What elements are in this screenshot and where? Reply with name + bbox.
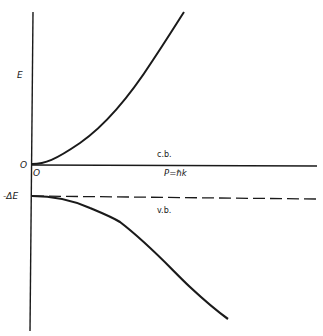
conduction-band-label: c.b. <box>157 150 172 159</box>
band-diagram: E O O -ΔE P=ℏk c.b. v.b. <box>0 0 323 336</box>
momentum-axis-label: P=ℏk <box>164 168 188 178</box>
energy-axis-label: E <box>17 70 23 80</box>
gap-energy-label: -ΔE <box>3 191 18 201</box>
origin-label: O <box>33 168 40 178</box>
gap-reference-line <box>32 196 316 199</box>
zero-energy-label: O <box>20 160 27 170</box>
valence-band-curve <box>32 196 228 319</box>
x-axis <box>32 165 317 166</box>
valence-band-label: v.b. <box>157 206 171 215</box>
conduction-band-curve <box>32 12 184 164</box>
